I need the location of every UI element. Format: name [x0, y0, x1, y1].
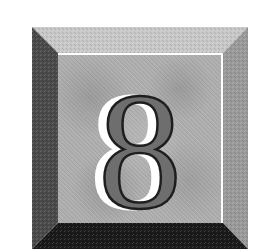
textured-panel: 8 8 — [58, 53, 223, 223]
numbered-badge-frame: 8 8 — [32, 27, 248, 249]
svg-text:8: 8 — [98, 57, 182, 225]
digit-eight-icon: 8 8 — [58, 55, 223, 225]
